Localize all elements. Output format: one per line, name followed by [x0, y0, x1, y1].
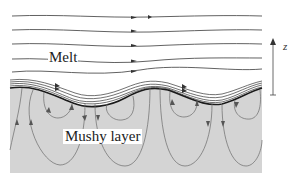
- mushy-layer-label: Mushy layer: [63, 129, 142, 144]
- melt-flow-arrows: [131, 16, 137, 73]
- z-axis-arrow: [270, 38, 276, 95]
- melt-label: Melt: [48, 50, 78, 65]
- diagram-canvas: [0, 0, 290, 180]
- z-axis-label: z: [283, 41, 287, 52]
